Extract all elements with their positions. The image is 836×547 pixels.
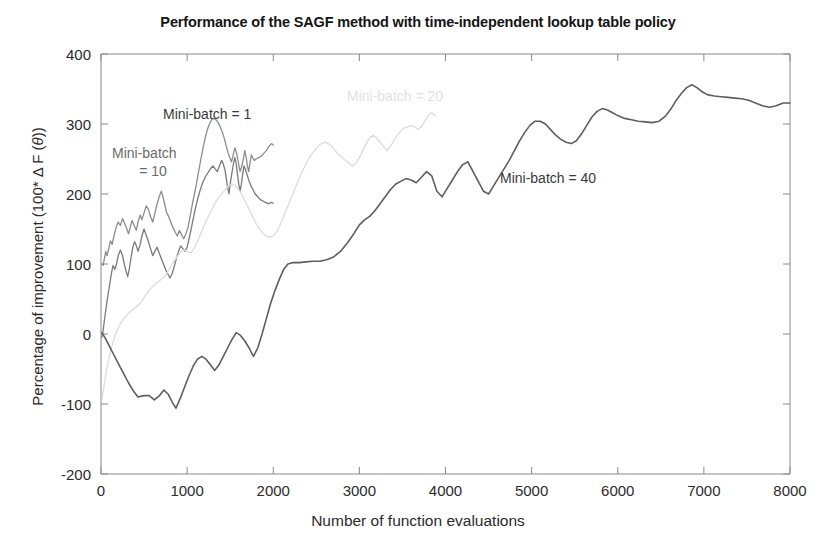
y-tick-label: 0 — [31, 326, 91, 343]
x-tick-label: 8000 — [750, 482, 830, 499]
series-annotation-2: Mini-batch = 20 — [347, 88, 443, 106]
y-tick-label: 100 — [31, 256, 91, 273]
x-tick-label: 7000 — [664, 482, 744, 499]
x-tick-label: 5000 — [492, 482, 572, 499]
chart-title: Performance of the SAGF method with time… — [0, 14, 836, 30]
series-line-1 — [102, 158, 273, 338]
y-tick-label: 300 — [31, 116, 91, 133]
series-annotation-3: Mini-batch = 40 — [500, 170, 596, 188]
series-annotation-1: Mini-batch = 10 — [112, 145, 177, 180]
series-line-3 — [102, 85, 790, 408]
y-axis-label-theta: θ — [29, 137, 46, 145]
x-tick-label: 1000 — [147, 482, 227, 499]
plot-canvas — [0, 0, 836, 547]
y-tick-label: 200 — [31, 186, 91, 203]
y-tick-label: -200 — [31, 466, 91, 483]
x-tick-label: 6000 — [578, 482, 658, 499]
x-tick-label: 2000 — [233, 482, 313, 499]
x-tick-label: 3000 — [319, 482, 399, 499]
y-tick-label: -100 — [31, 396, 91, 413]
x-axis-label: Number of function evaluations — [0, 512, 836, 530]
chart-figure: Performance of the SAGF method with time… — [0, 0, 836, 547]
y-tick-label: 400 — [31, 46, 91, 63]
x-tick-label: 4000 — [406, 482, 486, 499]
x-tick-label: 0 — [61, 482, 141, 499]
series-annotation-0: Mini-batch = 1 — [163, 106, 251, 124]
